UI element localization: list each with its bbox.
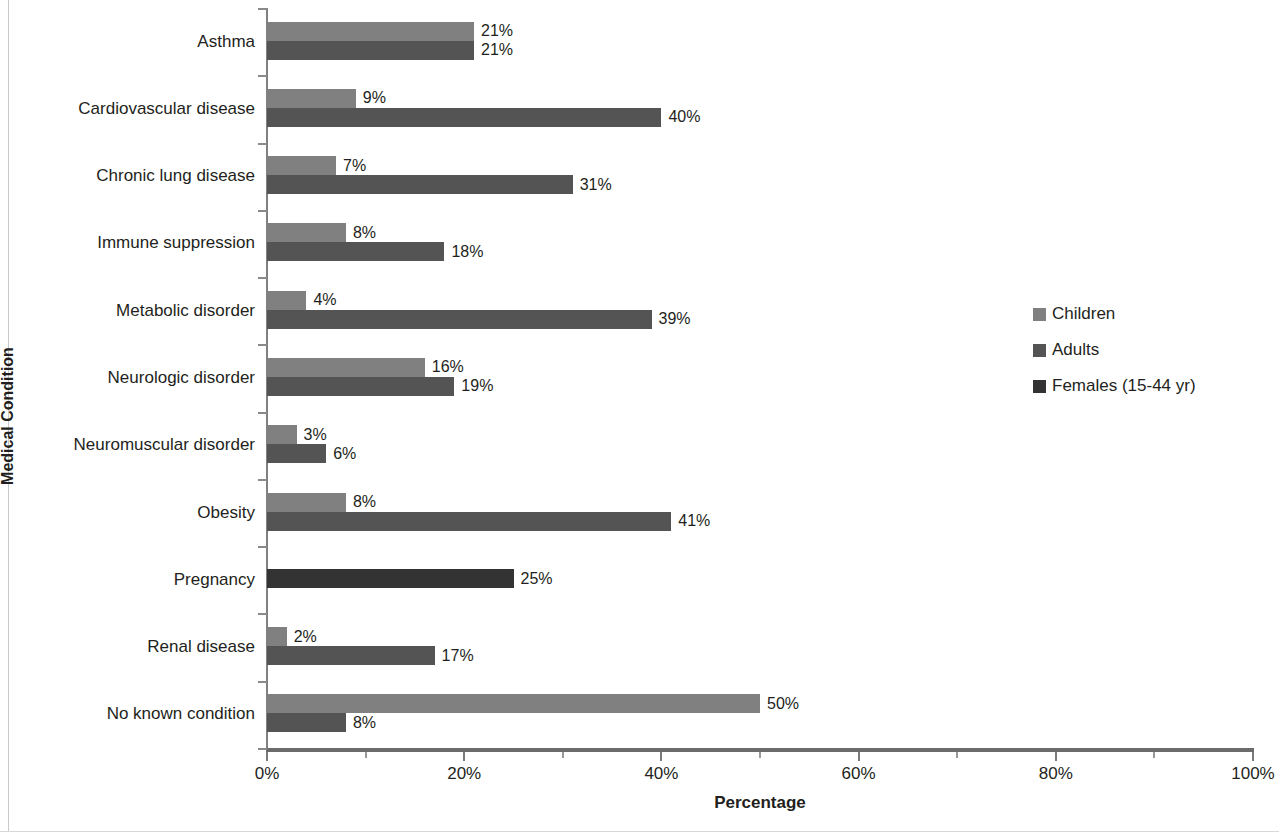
x-axis-minor-tick: [956, 752, 958, 758]
legend-swatch-icon: [1033, 308, 1046, 321]
bar-value-label: 41%: [678, 512, 710, 530]
bar-value-label: 4%: [313, 291, 336, 309]
y-axis-tick: [258, 479, 267, 481]
y-axis-tick: [258, 210, 267, 212]
bar-adults: 6%: [267, 444, 326, 463]
legend-label: Children: [1052, 304, 1115, 324]
bar-value-label: 6%: [333, 445, 356, 463]
legend-item[interactable]: Females (15-44 yr): [1033, 368, 1196, 404]
bar-value-label: 8%: [353, 493, 376, 511]
bar-females-15-44-yr: 25%: [267, 569, 514, 588]
bar-children: 8%: [267, 223, 346, 242]
bar-children: 7%: [267, 156, 336, 175]
x-axis-minor-tick: [1153, 752, 1155, 758]
category-band: Pregnancy25%: [267, 546, 1253, 613]
bar-children: 16%: [267, 358, 425, 377]
bar-adults: 19%: [267, 377, 454, 396]
y-axis-tick: [258, 75, 267, 77]
y-axis-category-label: Pregnancy: [174, 570, 255, 590]
y-axis-category-label: Neurologic disorder: [108, 368, 255, 388]
category-band: Renal disease2%17%: [267, 613, 1253, 680]
y-axis-tick: [258, 8, 267, 10]
bar-value-label: 31%: [580, 176, 612, 194]
y-axis-tick: [258, 277, 267, 279]
bar-value-label: 21%: [481, 22, 513, 40]
bar-children: 2%: [267, 627, 287, 646]
x-axis-tick-label: 20%: [447, 764, 481, 784]
bar-value-label: 8%: [353, 714, 376, 732]
x-axis-tick: [1055, 752, 1057, 761]
x-axis-tick-label: 60%: [842, 764, 876, 784]
x-axis-tick-label: 100%: [1231, 764, 1274, 784]
bar-value-label: 40%: [668, 108, 700, 126]
x-axis-tick-label: 40%: [644, 764, 678, 784]
y-axis-category-label: Chronic lung disease: [96, 166, 255, 186]
x-axis-minor-tick: [365, 752, 367, 758]
bar-children: 9%: [267, 89, 356, 108]
y-axis-tick: [258, 412, 267, 414]
x-axis-tick-label: 80%: [1039, 764, 1073, 784]
y-axis-category-label: Obesity: [197, 503, 255, 523]
category-band: Cardiovascular disease9%40%: [267, 75, 1253, 142]
bar-value-label: 16%: [432, 358, 464, 376]
bar-adults: 18%: [267, 242, 444, 261]
bar-value-label: 25%: [521, 570, 553, 588]
y-axis-tick: [258, 613, 267, 615]
category-band: Immune suppression8%18%: [267, 210, 1253, 277]
bar-value-label: 21%: [481, 41, 513, 59]
y-axis-title: Medical Condition: [0, 347, 17, 485]
x-axis-tick-label: 0%: [255, 764, 280, 784]
bar-value-label: 17%: [442, 647, 474, 665]
bar-children: 4%: [267, 291, 306, 310]
bar-adults: 21%: [267, 41, 474, 60]
bar-value-label: 7%: [343, 157, 366, 175]
bar-value-label: 39%: [659, 310, 691, 328]
category-band: No known condition50%8%: [267, 681, 1253, 748]
y-axis-tick: [258, 748, 267, 750]
y-axis-category-label: Neuromuscular disorder: [74, 435, 255, 455]
y-axis-category-label: Cardiovascular disease: [78, 99, 255, 119]
legend-item[interactable]: Adults: [1033, 332, 1196, 368]
x-axis-tick: [463, 752, 465, 761]
bar-value-label: 9%: [363, 89, 386, 107]
bar-children: 3%: [267, 425, 297, 444]
legend-swatch-icon: [1033, 380, 1046, 393]
bar-value-label: 18%: [451, 243, 483, 261]
y-axis-category-label: No known condition: [107, 704, 255, 724]
x-axis-tick: [266, 752, 268, 761]
bar-children: 50%: [267, 694, 760, 713]
legend-label: Females (15-44 yr): [1052, 376, 1196, 396]
x-axis-tick: [1252, 752, 1254, 761]
category-band: Chronic lung disease7%31%: [267, 143, 1253, 210]
y-axis-category-label: Renal disease: [147, 637, 255, 657]
category-band: Asthma21%21%: [267, 8, 1253, 75]
x-axis-minor-tick: [759, 752, 761, 758]
bar-value-label: 3%: [304, 426, 327, 444]
x-axis-tick: [660, 752, 662, 761]
chart-legend: ChildrenAdultsFemales (15-44 yr): [1033, 296, 1196, 404]
y-axis-category-label: Asthma: [197, 32, 255, 52]
y-axis-tick: [258, 143, 267, 145]
y-axis-tick: [258, 344, 267, 346]
bar-value-label: 50%: [767, 695, 799, 713]
x-axis-title: Percentage: [267, 793, 1253, 813]
y-axis-tick: [258, 681, 267, 683]
bar-adults: 39%: [267, 310, 652, 329]
bar-children: 21%: [267, 22, 474, 41]
legend-label: Adults: [1052, 340, 1099, 360]
bar-adults: 40%: [267, 108, 661, 127]
y-axis-category-label: Immune suppression: [97, 233, 255, 253]
y-axis-category-label: Metabolic disorder: [116, 301, 255, 321]
legend-item[interactable]: Children: [1033, 296, 1196, 332]
bar-value-label: 19%: [461, 377, 493, 395]
x-axis-tick: [858, 752, 860, 761]
y-axis-tick: [258, 546, 267, 548]
x-axis-minor-tick: [562, 752, 564, 758]
category-band: Neuromuscular disorder3%6%: [267, 412, 1253, 479]
bar-children: 8%: [267, 493, 346, 512]
bar-adults: 31%: [267, 175, 573, 194]
bar-value-label: 2%: [294, 628, 317, 646]
legend-swatch-icon: [1033, 344, 1046, 357]
bar-adults: 41%: [267, 512, 671, 531]
bar-adults: 8%: [267, 713, 346, 732]
